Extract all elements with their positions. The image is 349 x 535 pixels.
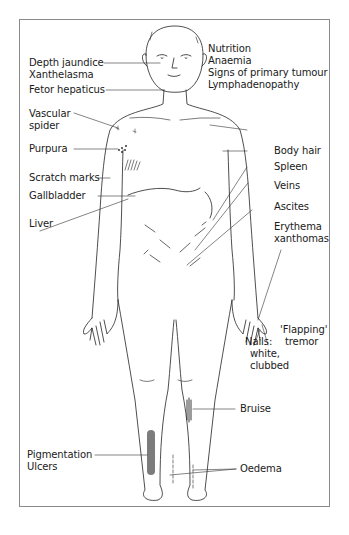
label-signs-primary-tumour: Signs of primary tumour — [208, 67, 328, 79]
label-tremor: tremor — [285, 336, 318, 348]
ascites-arrows — [145, 225, 205, 266]
nose — [172, 58, 177, 68]
label-veins: Veins — [274, 180, 300, 192]
label-clubbed: clubbed — [250, 360, 289, 372]
scratch-marks — [125, 160, 140, 170]
label-fetor-hepaticus: Fetor hepaticus — [29, 84, 105, 96]
label-lymphadenopathy: Lymphadenopathy — [208, 79, 299, 91]
pigmentation-area — [147, 430, 155, 475]
label-purpura: Purpura — [29, 143, 68, 155]
label-ascites: Ascites — [274, 201, 309, 213]
label-xanthomas: xanthomas — [274, 233, 329, 245]
label-ulcers: Ulcers — [27, 461, 57, 473]
bruise-mark — [187, 398, 191, 422]
label-flapping: 'Flapping' — [280, 324, 327, 336]
label-body-hair: Body hair — [274, 145, 321, 157]
vascular-spiders — [116, 126, 136, 133]
legs-outline — [118, 300, 232, 500]
label-vascular-spider-line1: Vascular — [29, 108, 70, 120]
left-hand — [83, 300, 118, 345]
label-scratch-marks: Scratch marks — [29, 172, 100, 184]
label-vascular-spider-line2: spider — [29, 120, 59, 132]
label-gallbladder: Gallbladder — [29, 190, 86, 202]
label-white: white, — [250, 348, 280, 360]
label-pigmentation: Pigmentation — [27, 449, 92, 461]
label-depth-jaundice: Depth jaundice — [29, 57, 104, 69]
label-liver: Liver — [29, 218, 53, 230]
purpura-marks — [118, 145, 127, 153]
torso-outline — [92, 90, 258, 318]
label-spleen: Spleen — [274, 161, 308, 173]
label-oedema: Oedema — [240, 463, 282, 475]
label-nails: Nails: — [245, 336, 272, 348]
label-xanthelasma: Xanthelasma — [29, 69, 94, 81]
mouth — [168, 75, 180, 77]
label-nutrition: Nutrition — [208, 43, 251, 55]
liver-edge — [128, 188, 200, 195]
head-outline — [146, 26, 203, 92]
label-bruise: Bruise — [240, 403, 271, 415]
label-erythema: Erythema — [274, 221, 322, 233]
spleen-edge — [205, 192, 212, 218]
label-anaemia: Anaemia — [208, 55, 251, 67]
